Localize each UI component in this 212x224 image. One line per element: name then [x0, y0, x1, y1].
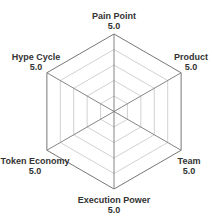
radar-spoke: [114, 73, 181, 112]
axis-value: 5.0: [174, 62, 208, 72]
axis-label-team: Team 5.0: [178, 156, 201, 176]
axis-name: Team: [178, 156, 201, 166]
axis-label-execution-power: Execution Power 5.0: [78, 195, 151, 215]
axis-name: Execution Power: [78, 195, 151, 205]
radar-chart: [0, 0, 212, 224]
axis-name: Pain Point: [92, 11, 136, 21]
axis-name: Hype Cycle: [12, 52, 61, 62]
axis-label-product: Product 5.0: [174, 52, 208, 72]
radar-spoke: [114, 112, 181, 151]
axis-name: Product: [174, 52, 208, 62]
axis-value: 5.0: [12, 62, 61, 72]
axis-name: Token Economy: [1, 156, 70, 166]
axis-label-token-economy: Token Economy 5.0: [1, 156, 70, 176]
axis-label-pain-point: Pain Point 5.0: [92, 11, 136, 31]
axis-value: 5.0: [78, 205, 151, 215]
axis-value: 5.0: [92, 21, 136, 31]
axis-value: 5.0: [1, 166, 70, 176]
axis-value: 5.0: [178, 166, 201, 176]
radar-spoke: [47, 112, 114, 151]
axis-label-hype-cycle: Hype Cycle 5.0: [12, 52, 61, 72]
radar-spoke: [47, 73, 114, 112]
